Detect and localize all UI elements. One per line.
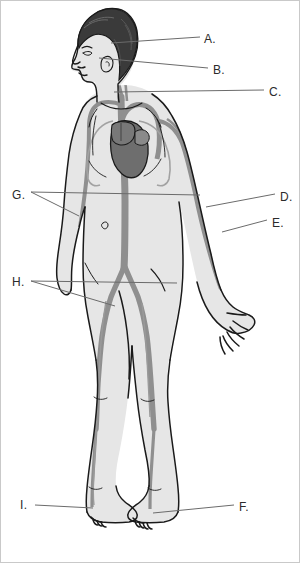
leader-line-e <box>222 220 267 232</box>
label-e: E. <box>272 217 284 229</box>
leader-line-i <box>35 505 93 508</box>
body-illustration <box>1 1 299 562</box>
label-a: A. <box>204 33 216 45</box>
label-h: H. <box>12 276 25 288</box>
label-i: I. <box>20 499 27 511</box>
anatomy-figure: A. B. C. D. E. F. G. H. I. <box>0 0 300 563</box>
label-c: C. <box>269 86 282 98</box>
label-f: F. <box>239 501 249 513</box>
label-b: B. <box>213 64 225 76</box>
leader-line-d <box>206 194 275 207</box>
label-d: D. <box>280 191 293 203</box>
label-g: G. <box>12 189 25 201</box>
